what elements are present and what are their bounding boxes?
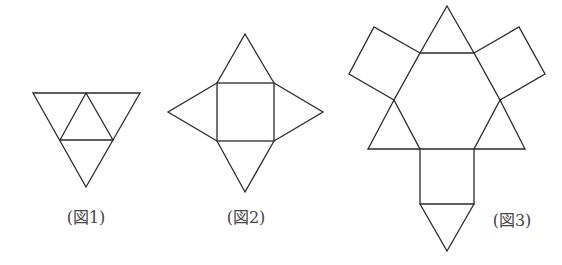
fig2-left-triangle	[168, 83, 217, 141]
fig3-right-triangle	[474, 100, 525, 149]
fig1-caption: (図1)	[67, 204, 106, 228]
fig2-caption: (図2)	[227, 204, 266, 228]
figure-1-tetrahedron-net	[33, 93, 140, 187]
fig2-top-triangle	[217, 34, 274, 83]
fig2-right-triangle	[274, 83, 323, 141]
fig2-square	[217, 83, 274, 141]
fig3-caption: (図3)	[493, 207, 532, 231]
figure-canvas: (図1) (図2) (図3)	[0, 0, 562, 265]
fig3-left-triangle	[368, 100, 420, 149]
fig2-bottom-triangle	[217, 141, 274, 192]
fig3-bottom-triangle	[420, 204, 474, 251]
fig3-hexagon	[394, 53, 500, 149]
fig3-bottom-square	[420, 149, 474, 204]
fig3-top-triangle	[420, 6, 474, 53]
fig3-left-square	[349, 27, 420, 100]
fig1-inner-triangle	[60, 93, 113, 140]
fig3-right-square	[474, 27, 545, 100]
figure-2-pyramid-net	[168, 34, 323, 192]
